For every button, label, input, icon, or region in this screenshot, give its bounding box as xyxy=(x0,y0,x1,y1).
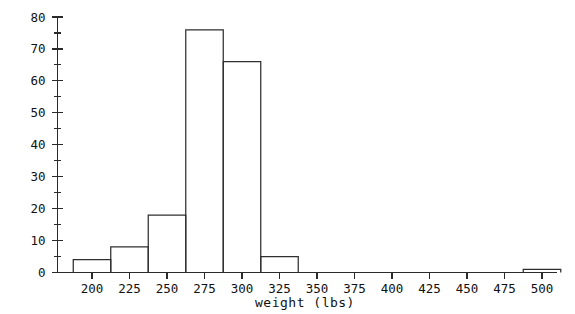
histogram-bars xyxy=(73,30,561,273)
histogram-bar xyxy=(261,257,299,273)
x-tick-label: 450 xyxy=(456,281,479,296)
x-tick-label: 275 xyxy=(193,281,216,296)
x-tick-label: 375 xyxy=(343,281,366,296)
x-tick-label: 350 xyxy=(306,281,329,296)
x-tick-label: 475 xyxy=(493,281,516,296)
x-tick-label: 425 xyxy=(418,281,441,296)
y-axis-tick-labels: 01020304050607080 xyxy=(30,10,45,281)
x-axis-tick-labels: 200225250275300325350375400425450475500 xyxy=(81,281,554,296)
y-axis: 01020304050607080 xyxy=(30,10,63,281)
y-tick-label: 20 xyxy=(30,201,45,216)
y-tick-label: 30 xyxy=(30,169,45,184)
x-tick-label: 500 xyxy=(531,281,554,296)
histogram-bar xyxy=(148,215,186,272)
y-tick-label: 10 xyxy=(30,233,45,248)
x-axis: 200225250275300325350375400425450475500 xyxy=(58,273,558,296)
histogram-bar xyxy=(73,260,111,273)
y-tick-label: 70 xyxy=(30,41,45,56)
histogram-chart: 01020304050607080 2002252502753003253503… xyxy=(0,0,575,314)
y-tick-label: 60 xyxy=(30,73,45,88)
x-axis-title: weight (lbs) xyxy=(255,295,355,310)
histogram-bar xyxy=(111,247,149,273)
x-tick-label: 400 xyxy=(381,281,404,296)
y-tick-label: 0 xyxy=(38,265,46,280)
histogram-svg: 01020304050607080 2002252502753003253503… xyxy=(0,0,575,314)
x-tick-label: 250 xyxy=(156,281,179,296)
y-tick-label: 40 xyxy=(30,137,45,152)
histogram-bar xyxy=(223,62,261,273)
x-tick-label: 225 xyxy=(118,281,141,296)
x-tick-label: 300 xyxy=(231,281,254,296)
x-axis-ticks xyxy=(92,273,542,279)
y-tick-label: 80 xyxy=(30,10,45,25)
y-tick-label: 50 xyxy=(30,105,45,120)
x-tick-label: 200 xyxy=(81,281,104,296)
x-tick-label: 325 xyxy=(268,281,291,296)
histogram-bar xyxy=(186,30,224,273)
